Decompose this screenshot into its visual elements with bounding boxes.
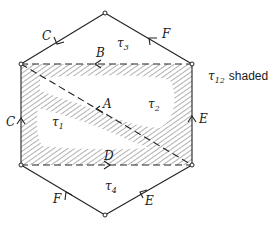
vertex-bottom: [103, 213, 107, 217]
label-E-right: E: [198, 112, 208, 126]
vertex-bottom-left: [19, 163, 23, 167]
edge-bottom-left-F: [21, 165, 105, 215]
label-E-bottom-right: E: [144, 194, 154, 208]
label-B: B: [95, 46, 105, 60]
region-label-tau2: τ2: [148, 97, 160, 113]
edge-top-left-C: [21, 13, 105, 64]
annotation-tau12-shaded: τ12shaded: [208, 69, 268, 85]
label-C-left: C: [6, 115, 15, 129]
triangulation-diagram: C F B A C E D F E τ3 τ2 τ1 τ4 τ12shaded: [0, 0, 274, 228]
vertex-top-left: [19, 62, 23, 66]
vertex-bottom-right: [190, 163, 194, 167]
region-label-tau3: τ3: [117, 36, 129, 52]
arrow-F-bottom-left-icon: [65, 192, 72, 200]
label-A: A: [102, 97, 112, 111]
label-F-bottom-left: F: [52, 192, 62, 206]
label-D: D: [103, 149, 114, 163]
vertex-top-right: [190, 62, 194, 66]
region-label-tau4: τ4: [105, 179, 117, 195]
label-F-top-right: F: [161, 27, 171, 41]
region-label-tau1: τ1: [52, 115, 64, 131]
vertex-top: [103, 11, 107, 15]
label-C-top-left: C: [42, 29, 51, 43]
